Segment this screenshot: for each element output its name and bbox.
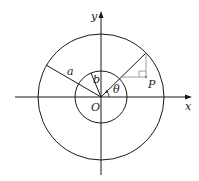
x-axis-arrow-icon <box>185 95 192 100</box>
point-p-label: P <box>147 78 156 91</box>
outer-radius-label: a <box>67 65 74 78</box>
x-axis-label: x <box>185 100 192 113</box>
polar-diagram: y x O a b θ P <box>0 0 199 181</box>
origin-label: O <box>91 101 100 114</box>
theta-label: θ <box>113 83 120 96</box>
inner-radius-label: b <box>93 73 100 86</box>
y-axis-arrow-icon <box>99 11 104 18</box>
right-angle-marker <box>139 71 146 77</box>
y-axis-label: y <box>90 10 98 23</box>
point-p-dot <box>145 76 147 78</box>
